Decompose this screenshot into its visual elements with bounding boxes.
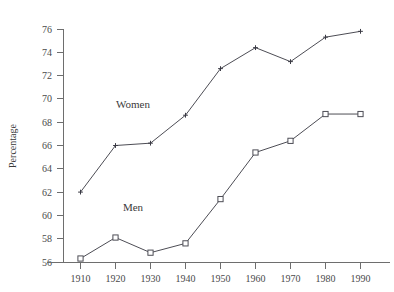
chart-container: 5658606264666870727476 Percentage 191019… <box>0 0 394 292</box>
y-axis-title: Percentage <box>7 124 18 168</box>
data-point-marker <box>323 111 328 116</box>
data-point-marker <box>113 235 118 240</box>
x-tick-label: 1910 <box>71 273 91 284</box>
y-tick-label: 74 <box>42 47 52 58</box>
data-point-marker <box>148 250 153 255</box>
x-tick-label-group: 191019201930194019501960197019801990 <box>71 273 371 284</box>
x-tick-group <box>81 262 361 269</box>
x-axis: 191019201930194019501960197019801990 <box>47 262 390 284</box>
data-point-marker <box>288 138 293 143</box>
x-tick-label: 1970 <box>281 273 301 284</box>
data-point-marker <box>183 241 188 246</box>
y-tick-label: 58 <box>42 233 52 244</box>
data-point-marker <box>253 150 258 155</box>
y-axis: 5658606264666870727476 Percentage <box>7 24 63 268</box>
series-line-women <box>81 31 361 192</box>
data-point-marker <box>78 256 83 261</box>
y-tick-label: 76 <box>42 24 52 35</box>
y-tick-label: 70 <box>42 93 52 104</box>
x-tick-label: 1920 <box>106 273 126 284</box>
series-men <box>78 111 363 261</box>
y-tick-group <box>57 29 63 262</box>
y-tick-label: 68 <box>42 117 52 128</box>
x-tick-label: 1940 <box>176 273 196 284</box>
y-tick-label: 62 <box>42 187 52 198</box>
x-tick-label: 1990 <box>351 273 371 284</box>
series-line-men <box>81 114 361 258</box>
y-tick-label-group: 5658606264666870727476 <box>42 24 52 268</box>
line-chart: 5658606264666870727476 Percentage 191019… <box>0 0 394 292</box>
series-annotation-men: Men <box>123 201 144 213</box>
y-tick-label: 64 <box>42 163 52 174</box>
series-layer <box>78 29 363 261</box>
annotation-layer: WomenMen <box>116 98 150 213</box>
series-women <box>78 29 363 195</box>
data-point-marker <box>218 196 223 201</box>
x-tick-label: 1950 <box>211 273 231 284</box>
x-tick-label: 1980 <box>316 273 336 284</box>
y-tick-label: 66 <box>42 140 52 151</box>
y-tick-label: 60 <box>42 210 52 221</box>
x-tick-label: 1960 <box>246 273 266 284</box>
series-annotation-women: Women <box>116 98 150 110</box>
data-point-marker <box>358 111 363 116</box>
y-tick-label: 72 <box>42 70 52 81</box>
x-tick-label: 1930 <box>141 273 161 284</box>
